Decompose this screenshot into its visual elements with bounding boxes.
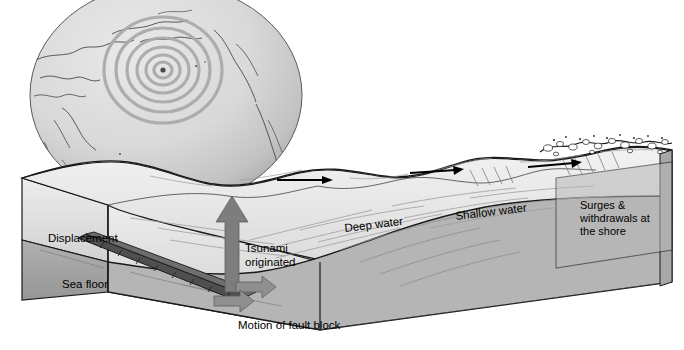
label-sea-floor: Sea floor: [62, 278, 108, 290]
epicenter-dot: [160, 67, 165, 72]
tsunami-diagram: Displacement Sea floor Tsunami originate…: [0, 0, 684, 350]
label-surges-line2: withdrawals at: [579, 212, 650, 224]
label-surges-line1: Surges &: [580, 199, 626, 211]
diagram-canvas: Displacement Sea floor Tsunami originate…: [0, 0, 684, 350]
label-motion-of-fault-block: Motion of fault block: [238, 319, 341, 331]
label-surges-line3: the shore: [580, 225, 626, 237]
label-tsunami-originated-line1: Tsunami: [245, 242, 288, 254]
label-tsunami-originated-line2: originated: [245, 256, 296, 268]
label-displacement: Displacement: [48, 232, 118, 244]
